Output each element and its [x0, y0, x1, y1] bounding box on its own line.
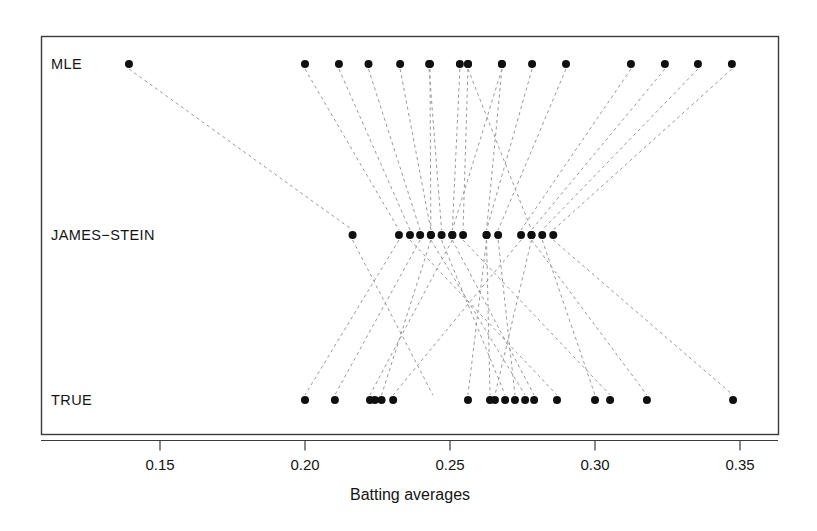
data-point — [501, 396, 509, 404]
data-point — [553, 396, 561, 404]
data-point — [416, 231, 424, 239]
data-point — [456, 60, 464, 68]
data-point — [562, 60, 570, 68]
data-point — [464, 60, 472, 68]
data-point — [517, 231, 525, 239]
data-point — [728, 60, 736, 68]
row-label-mle: MLE — [51, 56, 82, 72]
data-point — [331, 396, 339, 404]
data-point — [494, 231, 502, 239]
data-point — [301, 396, 309, 404]
data-point — [661, 60, 669, 68]
data-point — [459, 231, 467, 239]
data-point — [427, 231, 435, 239]
x-tick-label: 0.15 — [145, 456, 174, 473]
data-point — [464, 396, 472, 404]
figure-container: MLE JAMES−STEIN TRUE 0.150.200.250.300.3… — [0, 0, 817, 531]
data-point — [371, 396, 379, 404]
x-tick-label: 0.25 — [435, 456, 464, 473]
data-point — [627, 60, 635, 68]
data-point — [491, 396, 499, 404]
data-point — [521, 396, 529, 404]
data-point — [643, 396, 651, 404]
data-point — [395, 231, 403, 239]
data-point — [549, 231, 557, 239]
data-point — [498, 60, 506, 68]
data-point — [301, 60, 309, 68]
data-point — [406, 231, 414, 239]
data-point — [365, 60, 373, 68]
data-point — [591, 396, 599, 404]
data-point — [125, 60, 133, 68]
data-point — [335, 60, 343, 68]
data-point — [729, 396, 737, 404]
batting-averages-slope-chart: MLE JAMES−STEIN TRUE 0.150.200.250.300.3… — [0, 0, 817, 531]
data-point — [694, 60, 702, 68]
data-point — [396, 60, 404, 68]
x-tick-label: 0.30 — [580, 456, 609, 473]
row-label-james-stein: JAMES−STEIN — [51, 227, 155, 243]
data-point — [538, 231, 546, 239]
x-axis-title: Batting averages — [350, 486, 470, 503]
data-point — [483, 231, 491, 239]
figure-background — [0, 0, 817, 531]
data-point — [528, 60, 536, 68]
x-tick-label: 0.35 — [725, 456, 754, 473]
data-point — [426, 60, 434, 68]
data-point — [511, 396, 519, 404]
data-point — [606, 396, 614, 404]
data-point — [389, 396, 397, 404]
row-label-true: TRUE — [51, 392, 92, 408]
x-tick-label: 0.20 — [290, 456, 319, 473]
data-point — [349, 231, 357, 239]
data-point — [530, 396, 538, 404]
data-point — [527, 231, 535, 239]
data-point — [438, 231, 446, 239]
data-point — [448, 231, 456, 239]
